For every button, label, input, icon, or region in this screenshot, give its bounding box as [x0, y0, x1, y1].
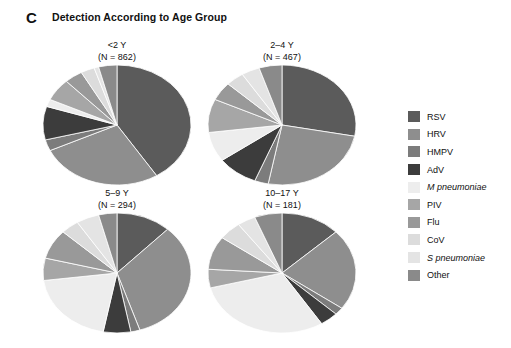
- legend-item-label: M pneumoniae: [427, 182, 487, 192]
- legend-item: AdV: [408, 161, 508, 179]
- legend-swatch-icon: [408, 252, 420, 263]
- chart-sample-size: (N = 467): [197, 52, 367, 64]
- legend-swatch-icon: [408, 270, 420, 281]
- legend-item-label: Other: [427, 270, 450, 280]
- pie-chart-cell-under-2y: <2 Y (N = 862): [32, 40, 202, 190]
- pie-chart-under-2y: [39, 63, 195, 187]
- legend-item: HRV: [408, 126, 508, 144]
- pie-svg: [39, 63, 195, 187]
- pie-slice: [268, 125, 355, 185]
- legend-swatch-icon: [408, 182, 420, 193]
- legend-swatch-icon: [408, 111, 420, 122]
- pie-chart-10-17y: [204, 211, 360, 335]
- legend-item-label: PIV: [427, 200, 442, 210]
- chart-sample-size: (N = 294): [32, 200, 202, 212]
- legend-item-label: HRV: [427, 129, 446, 139]
- legend-item: S pneumoniae: [408, 249, 508, 267]
- figure-panel-c: C Detection According to Age Group <2 Y …: [0, 0, 511, 348]
- legend-swatch-icon: [408, 234, 420, 245]
- pie-chart-2-4y: [204, 63, 360, 187]
- legend-item-label: HMPV: [427, 147, 453, 157]
- chart-label: 5–9 Y (N = 294): [32, 188, 202, 211]
- legend-swatch-icon: [408, 217, 420, 228]
- pie-chart-cell-10-17y: 10–17 Y (N = 181): [197, 188, 367, 338]
- pie-svg: [204, 63, 360, 187]
- legend-swatch-icon: [408, 164, 420, 175]
- legend-swatch-icon: [408, 129, 420, 140]
- legend-item-label: Flu: [427, 217, 440, 227]
- legend-item: RSV: [408, 108, 508, 126]
- legend-item-label: CoV: [427, 235, 445, 245]
- chart-title: 10–17 Y: [265, 188, 298, 198]
- chart-sample-size: (N = 181): [197, 200, 367, 212]
- legend-item-label: AdV: [427, 165, 444, 175]
- legend: RSVHRVHMPVAdVM pneumoniaePIVFluCoVS pneu…: [408, 108, 508, 284]
- legend-item: Flu: [408, 214, 508, 232]
- pie-svg: [39, 211, 195, 335]
- chart-title: 5–9 Y: [105, 188, 128, 198]
- page-title: Detection According to Age Group: [52, 11, 227, 23]
- chart-label: <2 Y (N = 862): [32, 40, 202, 63]
- chart-title: <2 Y: [108, 40, 127, 50]
- pie-chart-cell-5-9y: 5–9 Y (N = 294): [32, 188, 202, 338]
- legend-item-label: RSV: [427, 112, 446, 122]
- legend-item: PIV: [408, 196, 508, 214]
- legend-item: CoV: [408, 231, 508, 249]
- panel-letter: C: [26, 9, 37, 26]
- pie-chart-5-9y: [39, 211, 195, 335]
- chart-sample-size: (N = 862): [32, 52, 202, 64]
- pie-svg: [204, 211, 360, 335]
- chart-label: 10–17 Y (N = 181): [197, 188, 367, 211]
- chart-title: 2–4 Y: [270, 40, 293, 50]
- pie-slice: [282, 65, 356, 136]
- legend-swatch-icon: [408, 199, 420, 210]
- legend-item-label: S pneumoniae: [427, 253, 485, 263]
- legend-item: M pneumoniae: [408, 178, 508, 196]
- legend-item: HMPV: [408, 143, 508, 161]
- pie-chart-cell-2-4y: 2–4 Y (N = 467): [197, 40, 367, 190]
- panel-header: C Detection According to Age Group: [0, 9, 511, 29]
- legend-swatch-icon: [408, 146, 420, 157]
- chart-label: 2–4 Y (N = 467): [197, 40, 367, 63]
- legend-item: Other: [408, 266, 508, 284]
